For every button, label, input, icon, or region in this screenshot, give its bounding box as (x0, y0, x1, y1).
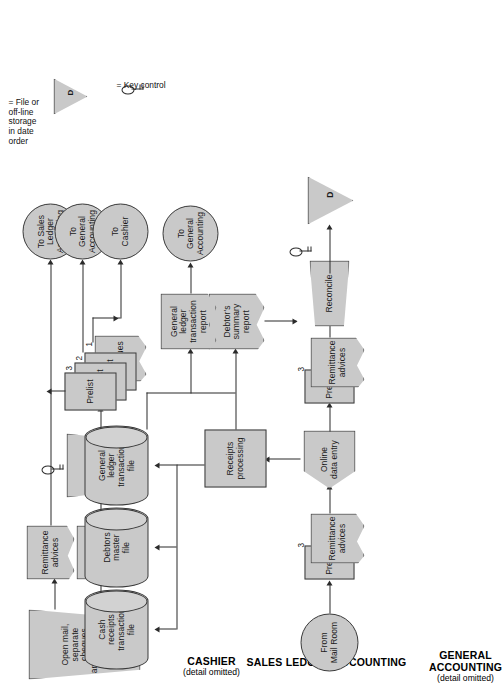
key-control-ring-icon-2 (289, 247, 302, 256)
arrowhead-debtors-master-file (154, 544, 159, 550)
connector-cheques-to-cashier (120, 262, 121, 318)
lane-heading-general-accounting: GENERAL ACCOUNTING (detail omitted) (395, 648, 503, 682)
connector-prelist2-to-general-accounting (82, 262, 83, 352)
document-stack-prelist-3: Prelist (64, 372, 116, 410)
connector-bus-to-general-ledger-file (158, 464, 176, 465)
arrowhead-glreport-terminator (187, 262, 193, 267)
connector-reconcile-to-file-d (329, 227, 330, 273)
key-control-tooth2-icon-2 (310, 246, 311, 251)
copy-number-2: 2 (74, 355, 83, 360)
document-remittance-advices-out-label: Remittance advices (311, 338, 363, 386)
connector-openmail-to-remittance (54, 581, 55, 609)
key-control-tooth1-icon (59, 464, 60, 469)
connector-glreport-to-terminator (190, 265, 191, 293)
arrowhead-reconcile-file-d (326, 224, 332, 229)
lane-subtitle-general-accounting: (detail omitted) (395, 672, 503, 682)
arrowhead-cheques-down (113, 315, 118, 321)
process-reconcile-label: Reconcile (297, 274, 361, 312)
document-general-ledger-transaction-report: General ledger transaction report (160, 293, 216, 349)
process-online-data-entry-label: Online data entry (301, 434, 357, 484)
connector-frommailroom-to-prelist (329, 583, 330, 613)
file-general-ledger-transaction-label: General ledger transaction file (77, 434, 155, 496)
key-control-ring-icon (41, 465, 54, 474)
file-debtors-master-label: Debtors master file (77, 516, 155, 578)
terminator-to-general-accounting-sales-ledger: To General Accounting (162, 205, 218, 261)
connector-to-gl-transaction-report (190, 351, 191, 393)
key-control-marker-mail-room (41, 460, 63, 476)
document-debtors-summary-report-label: Debtor's summary report (209, 294, 263, 348)
arrowhead-debtors-summary-reconcile (292, 318, 297, 324)
arrowhead-cash-receipts-file (154, 626, 159, 632)
document-remittance-advices-in: Remittance advices (310, 513, 364, 563)
lane-title-general-accounting-2: ACCOUNTING (395, 660, 503, 672)
copy-number-3: 3 (64, 365, 73, 370)
connector-prelist1-right (92, 317, 93, 342)
connector-dataentry-to-receipts-processing (268, 458, 300, 459)
legend-key-control-text: = Key control (116, 79, 165, 89)
terminator-to-cashier: To Cashier (92, 203, 148, 259)
offline-storage-file-d: D (307, 176, 353, 224)
rotated-diagram-wrapper: MAIL ROOM CASHIER (detail omitted) SALES… (0, 0, 503, 693)
connector-gl-file-branch-horizontal (146, 392, 147, 429)
arrowhead-remittance-sales-ledger (47, 259, 53, 264)
arrowhead-frommailroom-prelist (326, 580, 332, 585)
legend-file-text-wrapper: = File or off-line storage in date order (8, 97, 104, 145)
connector-bus-to-debtors-master-file (158, 546, 176, 547)
lane-subtitle-cashier: (detail omitted) (141, 666, 281, 676)
document-remittance-advices-label: Remittance advices (27, 526, 73, 578)
key-control-tooth1-icon-2 (307, 246, 308, 251)
lane-title-general-accounting-1: GENERAL (395, 648, 503, 660)
process-online-data-entry: Online data entry (303, 430, 355, 488)
arrowhead-prelist2-general-accounting (79, 259, 85, 264)
connector-bus-to-cash-receipts-file (158, 628, 176, 629)
connector-receipts-up-to-bus (176, 464, 204, 465)
process-receipts-processing-label: Receipts processing (205, 430, 265, 486)
offline-storage-file-d-label: D (307, 172, 353, 216)
legend-file-text: = File or off-line storage in date order (8, 97, 104, 145)
document-remittance-advices: Remittance advices (26, 525, 74, 579)
connector-debtors-summary-to-reconcile (264, 320, 296, 321)
terminator-from-mail-room: From Mail Room (300, 613, 358, 671)
terminator-from-mail-room-label: From Mail Room (301, 614, 357, 670)
legend-key-control-text-wrapper: = Key control (116, 79, 165, 89)
document-stack-prelist-3-label: Prelist (65, 373, 115, 409)
arrowhead-cheques-cashier (117, 259, 123, 264)
connector-receipts-to-debtors-summary (235, 351, 236, 429)
connector-prelist3-up (50, 390, 65, 391)
document-remittance-advices-in-label: Remittance advices (311, 514, 363, 562)
key-control-stem-icon-2 (299, 250, 311, 251)
flowchart-canvas: MAIL ROOM CASHIER (detail omitted) SALES… (0, 0, 503, 693)
key-control-marker-sales-ledger (289, 242, 311, 258)
file-cash-receipts-transaction-label: Cash receipts transaction file (77, 598, 155, 660)
file-cash-receipts-transaction: Cash receipts transaction file (84, 589, 148, 669)
file-debtors-master: Debtors master file (84, 507, 148, 587)
process-receipts-processing: Receipts processing (204, 429, 266, 487)
document-remittance-advices-out: Remittance advices (310, 337, 364, 387)
file-general-ledger-transaction: General ledger transaction file (84, 425, 148, 505)
key-control-stem-icon (51, 468, 63, 469)
arrowhead-prelist3-up (46, 388, 51, 394)
arrowhead-general-ledger-file (154, 462, 159, 468)
connector-remittancein-to-dataentry (329, 487, 330, 513)
key-control-tooth2-icon (62, 464, 63, 469)
connector-dataentry-to-prelistout (329, 405, 330, 431)
terminator-to-cashier-label: To Cashier (93, 204, 147, 258)
document-general-ledger-transaction-report-label: General ledger transaction report (161, 294, 215, 348)
terminator-to-general-accounting-sales-ledger-label: To General Accounting (163, 206, 217, 260)
